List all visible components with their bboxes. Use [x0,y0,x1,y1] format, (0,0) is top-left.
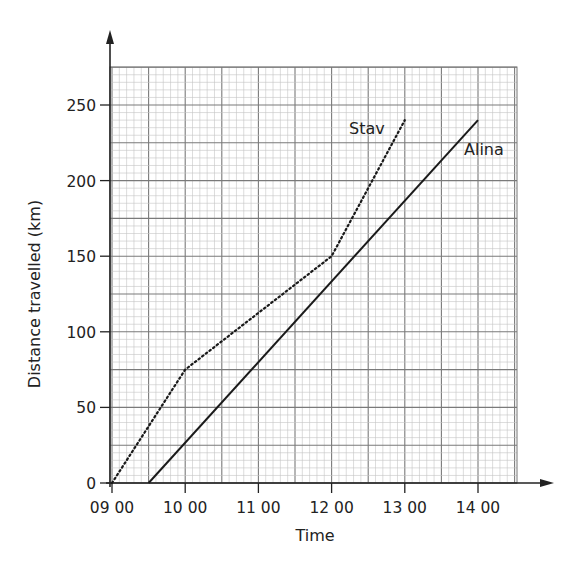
y-tick-label: 0 [86,475,96,493]
y-axis-label: Distance travelled (km) [25,200,44,388]
y-tick-label: 150 [66,248,96,266]
x-tick-label: 14 00 [456,499,500,517]
y-tick-label: 100 [66,324,96,342]
y-tick-label: 250 [66,97,96,115]
series-label-alina: Alina [464,140,504,159]
x-tick-label: 12 00 [309,499,353,517]
x-tick-label: 13 00 [383,499,427,517]
y-tick-label: 200 [66,173,96,191]
x-tick-label: 10 00 [163,499,207,517]
x-axis-arrow-icon [540,479,554,487]
y-tick-label: 50 [76,399,96,417]
tick-labels: 05010015020025009 0010 0011 0012 0013 00… [66,97,500,517]
distance-time-chart: 05010015020025009 0010 0011 0012 0013 00… [0,0,578,578]
x-axis-label: Time [294,526,334,545]
x-tick-label: 09 00 [90,499,134,517]
x-tick-label: 11 00 [236,499,280,517]
graph-paper-grid [110,67,517,483]
y-axis-arrow-icon [106,30,114,44]
axes [100,30,554,493]
series-label-stav: Stav [349,119,385,138]
